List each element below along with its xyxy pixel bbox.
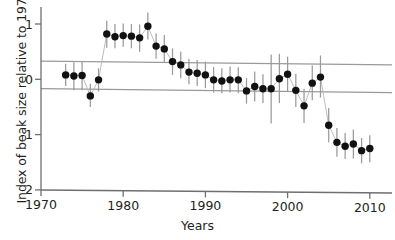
data-point [136, 34, 143, 41]
data-point [202, 71, 209, 78]
x-tick-label: 2010 [354, 200, 386, 215]
data-point [292, 87, 299, 94]
data-point [325, 121, 332, 128]
x-axis [41, 190, 392, 193]
data-point [309, 79, 316, 86]
x-tick-label: 1970 [25, 197, 57, 212]
x-tick-label: 1980 [107, 198, 139, 213]
data-point [259, 85, 266, 92]
y-tick-label: -1 [21, 127, 33, 142]
x-tick-labels: 19701980199020002010 [25, 197, 386, 215]
data-points [62, 23, 374, 155]
x-tick-label: 2000 [272, 199, 304, 214]
data-point [161, 45, 168, 52]
data-point [177, 61, 184, 68]
data-point [366, 145, 373, 152]
data-point [78, 72, 85, 79]
x-tick-label: 1990 [189, 198, 221, 213]
data-point [120, 32, 127, 39]
data-point [226, 76, 233, 83]
y-tick-label: 0 [25, 72, 33, 87]
data-point [267, 85, 274, 92]
y-tick-label: -2 [21, 182, 33, 197]
series-path [66, 26, 370, 150]
y-tick-labels: 10-1-2 [21, 17, 34, 198]
data-point [251, 83, 258, 90]
data-point [87, 92, 94, 99]
chart-figure: Index of beak size relative to 1973 Year… [0, 0, 395, 240]
data-point [218, 77, 225, 84]
data-point [210, 76, 217, 83]
data-point [276, 75, 283, 82]
data-point [350, 140, 357, 147]
upper-reference-line [41, 61, 392, 65]
reference-lines [41, 61, 392, 93]
data-point [95, 76, 102, 83]
data-point [300, 102, 307, 109]
series-connector-line [66, 26, 370, 150]
data-point [333, 139, 340, 146]
data-point [185, 68, 192, 75]
data-point [358, 147, 365, 154]
data-point [243, 87, 250, 94]
data-point [128, 32, 135, 39]
data-point [317, 73, 324, 80]
data-point [103, 30, 110, 37]
data-point [235, 76, 242, 83]
data-point [62, 71, 69, 78]
axes [35, 7, 392, 199]
y-tick-label: 1 [25, 17, 33, 32]
data-point [152, 42, 159, 49]
data-point [341, 143, 348, 150]
data-point [284, 71, 291, 78]
data-point [70, 72, 77, 79]
data-point [144, 23, 151, 30]
data-point [193, 70, 200, 77]
plot-area: 10-1-2 19701980199020002010 [0, 0, 395, 240]
data-point [169, 58, 176, 65]
data-point [111, 33, 118, 40]
